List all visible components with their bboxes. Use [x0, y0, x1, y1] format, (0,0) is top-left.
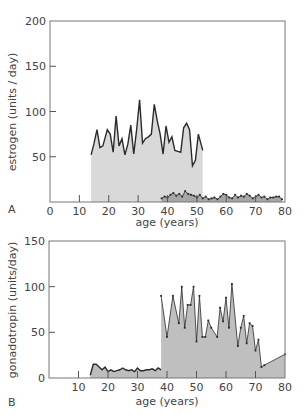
data-point [184, 327, 186, 329]
data-point [210, 327, 212, 329]
x-tick-label: 50 [190, 381, 204, 394]
x-tick-label: 30 [131, 381, 145, 394]
data-point [187, 193, 189, 195]
data-point [170, 194, 172, 196]
data-point [258, 194, 260, 196]
data-point [281, 198, 283, 200]
data-point [266, 198, 268, 200]
data-point [202, 197, 204, 199]
x-tick-label: 70 [249, 205, 263, 218]
hormone-charts: 0102030405060708050100150200 10203040506… [0, 0, 303, 420]
data-point [196, 341, 198, 343]
data-point [193, 195, 195, 197]
data-point [249, 322, 251, 324]
y-tick-label: 50 [32, 151, 46, 164]
data-point [190, 304, 192, 306]
data-point [181, 286, 183, 288]
data-point [275, 196, 277, 198]
data-point [240, 195, 242, 197]
data-point [161, 197, 163, 199]
data-point [207, 320, 209, 322]
y-tick-label: 50 [31, 326, 45, 339]
y-tick-label: 150 [24, 235, 45, 248]
data-point [187, 304, 189, 306]
data-point [160, 295, 162, 297]
data-point [228, 197, 230, 199]
data-point [243, 196, 245, 198]
y-axis-label-a: estrogen (units / day) [6, 53, 19, 172]
data-point [205, 196, 207, 198]
data-point [178, 193, 180, 195]
data-point [208, 198, 210, 200]
y-axis-label-b: gonadotropin (units/day) [6, 242, 19, 379]
data-point [261, 197, 263, 199]
data-point [278, 196, 280, 198]
x-tick-label: 10 [72, 381, 86, 394]
panel-label-b: B [8, 396, 16, 409]
data-point [216, 336, 218, 338]
data-point [211, 197, 213, 199]
x-tick-label: 80 [278, 381, 292, 394]
data-point [190, 194, 192, 196]
y-tick-label: 100 [25, 106, 46, 119]
data-point [258, 339, 260, 341]
data-point [252, 325, 254, 327]
data-point [269, 197, 271, 199]
data-point [175, 195, 177, 197]
data-point [178, 322, 180, 324]
data-point [193, 286, 195, 288]
data-point [222, 320, 224, 322]
x-tick-label: 60 [219, 381, 233, 394]
data-point [237, 197, 239, 199]
data-point [219, 307, 221, 309]
data-point [217, 198, 219, 200]
data-point [234, 194, 236, 196]
data-point [255, 350, 257, 352]
data-point [252, 197, 254, 199]
y-tick-label: 200 [25, 15, 46, 28]
y-tick-label: 0 [38, 372, 45, 385]
data-point [243, 315, 245, 317]
x-tick-label: 70 [249, 381, 263, 394]
x-axis-label-a: age (years) [136, 216, 199, 229]
gonadotropin-chart: 1020304050607080050100150 [24, 235, 292, 394]
data-point [225, 297, 227, 299]
data-point [204, 336, 206, 338]
data-point [249, 195, 251, 197]
data-point [202, 336, 204, 338]
y-tick-label: 150 [25, 60, 46, 73]
data-point [214, 197, 216, 199]
data-point [272, 197, 274, 199]
y-tick-label: 100 [24, 281, 45, 294]
series-area-0 [91, 100, 203, 202]
data-point [184, 190, 186, 192]
panel-label-a: A [8, 203, 16, 216]
data-point [222, 193, 224, 195]
data-point [263, 364, 265, 366]
data-point [246, 342, 248, 344]
data-point [172, 192, 174, 194]
data-point [164, 196, 166, 198]
data-point [199, 295, 201, 297]
x-tick-label: 20 [101, 381, 115, 394]
data-point [219, 196, 221, 198]
data-point [199, 194, 201, 196]
x-tick-label: 10 [72, 205, 86, 218]
x-tick-label: 80 [278, 205, 292, 218]
data-point [246, 193, 248, 195]
x-axis-label-b: age (years) [136, 395, 199, 408]
data-point [261, 366, 263, 368]
data-point [228, 327, 230, 329]
data-point [264, 196, 266, 198]
x-tick-label: 20 [102, 205, 116, 218]
data-point [240, 327, 242, 329]
data-point [166, 336, 168, 338]
x-tick-label: 60 [219, 205, 233, 218]
x-tick-label: 40 [160, 381, 174, 394]
data-point [231, 283, 233, 285]
data-point [237, 345, 239, 347]
data-point [181, 196, 183, 198]
data-point [231, 197, 233, 199]
x-tick-label: 0 [47, 205, 54, 218]
data-point [172, 295, 174, 297]
